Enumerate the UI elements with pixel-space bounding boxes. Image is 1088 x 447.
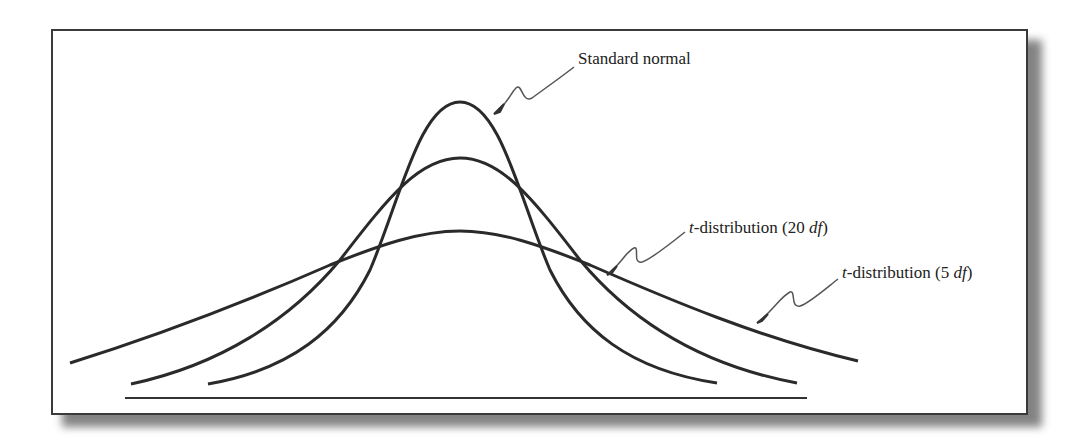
arrowhead-t20: [607, 266, 617, 275]
curve-standard-normal: [208, 102, 717, 384]
distribution-plot: [0, 0, 1088, 447]
label-t5: t-distribution (5 df): [842, 264, 972, 281]
label-standard-normal: Standard normal: [578, 50, 691, 67]
curve-t20: [131, 158, 797, 384]
leader-standard-normal: [498, 67, 574, 110]
label-t20: t-distribution (20 df): [689, 219, 828, 236]
arrowhead-t5: [757, 314, 768, 323]
curve-t5: [70, 231, 858, 363]
arrowhead-standard-normal: [494, 104, 504, 114]
leader-t20: [612, 232, 685, 270]
leader-t5: [763, 279, 838, 318]
